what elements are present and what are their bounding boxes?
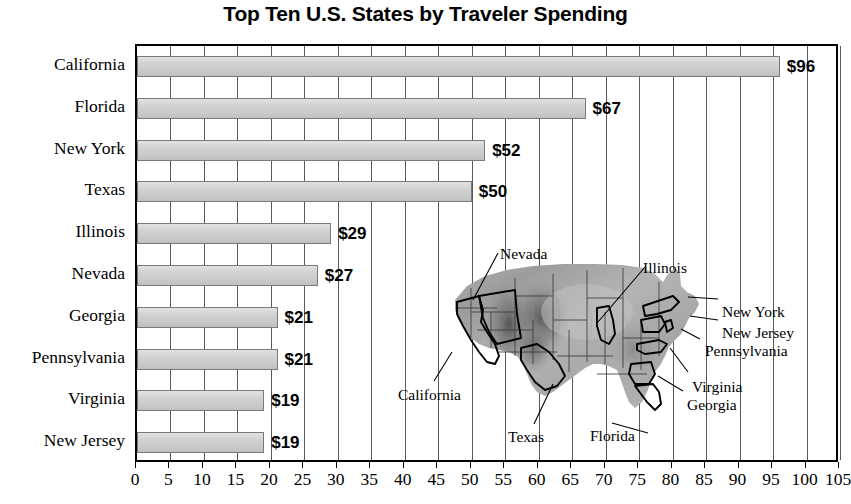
bar-row: $50 — [137, 171, 836, 213]
map-callout-california: California — [398, 386, 461, 404]
category-label-pennsylvania: Pennsylvania — [32, 337, 125, 379]
x-tick-mark — [704, 462, 705, 468]
bar-value-label: $21 — [285, 307, 313, 328]
x-tick-label: 20 — [260, 469, 278, 490]
x-tick-mark — [470, 462, 471, 468]
x-tick-label: 70 — [595, 469, 613, 490]
gridline — [840, 46, 841, 460]
us-map-svg — [437, 252, 719, 420]
x-tick-mark — [369, 462, 370, 468]
x-tick-label: 75 — [628, 469, 646, 490]
x-tick-mark — [604, 462, 605, 468]
category-label-florida: Florida — [74, 86, 125, 128]
category-label-new-york: New York — [54, 128, 125, 170]
x-tick-label: 95 — [762, 469, 780, 490]
bar-value-label: $96 — [787, 56, 815, 77]
bar-florida — [137, 98, 586, 119]
x-tick-label: 25 — [294, 469, 312, 490]
bar-new-york — [137, 140, 485, 161]
x-tick-label: 100 — [791, 469, 817, 490]
bar-value-label: $19 — [271, 432, 299, 453]
map-callout-georgia: Georgia — [687, 396, 737, 414]
x-tick-label: 30 — [327, 469, 345, 490]
x-tick-label: 40 — [394, 469, 412, 490]
x-tick-mark — [771, 462, 772, 468]
map-callout-florida: Florida — [590, 427, 635, 445]
x-tick-mark — [503, 462, 504, 468]
bar-value-label: $27 — [325, 265, 353, 286]
x-tick-mark — [570, 462, 571, 468]
x-tick-label: 45 — [428, 469, 446, 490]
category-label-virginia: Virginia — [68, 378, 125, 420]
x-tick-mark — [135, 462, 136, 468]
bar-value-label: $29 — [338, 223, 366, 244]
map-callout-virginia: Virginia — [692, 378, 742, 396]
x-tick-mark — [302, 462, 303, 468]
y-axis-category-labels: CaliforniaFloridaNew YorkTexasIllinoisNe… — [0, 44, 131, 462]
x-tick-mark — [637, 462, 638, 468]
bar-california — [137, 56, 780, 77]
x-tick-mark — [671, 462, 672, 468]
x-tick-label: 35 — [361, 469, 379, 490]
x-tick-label: 5 — [164, 469, 173, 490]
chart-figure: Top Ten U.S. States by Traveler Spending… — [0, 0, 851, 504]
bar-row: $19 — [137, 422, 836, 464]
map-callout-pennsylvania: Pennsylvania — [705, 342, 788, 360]
page-title: Top Ten U.S. States by Traveler Spending — [0, 2, 851, 26]
category-label-new-jersey: New Jersey — [44, 420, 125, 462]
bar-value-label: $19 — [271, 390, 299, 411]
x-tick-label: 80 — [662, 469, 680, 490]
x-axis: 0510152025303540455055606570758085909510… — [135, 462, 838, 502]
x-tick-mark — [805, 462, 806, 468]
x-tick-label: 85 — [695, 469, 713, 490]
bar-illinois — [137, 223, 331, 244]
x-tick-mark — [235, 462, 236, 468]
map-callout-new-york: New York — [722, 303, 785, 321]
bar-row: $29 — [137, 213, 836, 255]
map-callout-nevada: Nevada — [500, 245, 547, 263]
bar-row: $96 — [137, 46, 836, 88]
x-tick-mark — [336, 462, 337, 468]
x-tick-mark — [838, 462, 839, 468]
bar-texas — [137, 181, 472, 202]
bar-georgia — [137, 307, 278, 328]
x-tick-mark — [738, 462, 739, 468]
category-label-nevada: Nevada — [72, 253, 125, 295]
map-callout-illinois: Illinois — [643, 259, 687, 277]
united-states-map-inset — [437, 252, 719, 420]
bar-row: $67 — [137, 88, 836, 130]
bar-pennsylvania — [137, 349, 278, 370]
map-callout-new-jersey: New Jersey — [722, 324, 794, 342]
x-tick-label: 0 — [131, 469, 140, 490]
category-label-georgia: Georgia — [69, 295, 125, 337]
x-tick-label: 105 — [825, 469, 851, 490]
x-tick-label: 15 — [227, 469, 245, 490]
category-label-texas: Texas — [84, 169, 125, 211]
x-tick-mark — [537, 462, 538, 468]
category-label-california: California — [54, 44, 125, 86]
x-tick-mark — [168, 462, 169, 468]
x-tick-mark — [269, 462, 270, 468]
x-tick-label: 65 — [561, 469, 579, 490]
bar-row: $52 — [137, 130, 836, 172]
category-label-illinois: Illinois — [75, 211, 125, 253]
bar-value-label: $52 — [492, 140, 520, 161]
bar-value-label: $50 — [479, 181, 507, 202]
x-tick-label: 60 — [528, 469, 546, 490]
map-callout-texas: Texas — [508, 428, 544, 446]
bar-value-label: $67 — [593, 98, 621, 119]
bar-new-jersey — [137, 432, 264, 453]
bar-virginia — [137, 390, 264, 411]
bar-value-label: $21 — [285, 349, 313, 370]
bar-nevada — [137, 265, 318, 286]
x-tick-label: 50 — [461, 469, 479, 490]
x-tick-label: 90 — [729, 469, 747, 490]
map-relief-fill — [437, 252, 719, 420]
x-tick-label: 10 — [193, 469, 211, 490]
x-tick-mark — [403, 462, 404, 468]
x-tick-mark — [202, 462, 203, 468]
x-tick-label: 55 — [494, 469, 512, 490]
x-tick-mark — [436, 462, 437, 468]
